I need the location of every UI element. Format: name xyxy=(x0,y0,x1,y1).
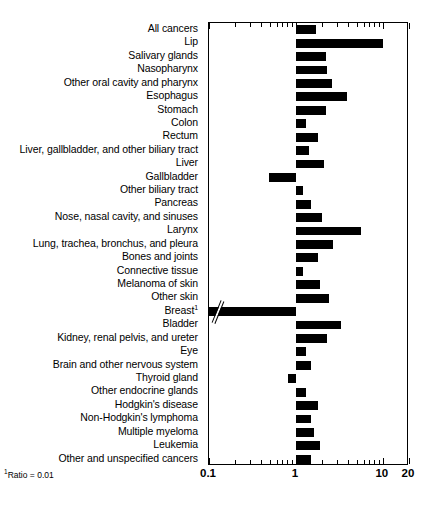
bar xyxy=(296,240,333,249)
category-label: Esophagus xyxy=(0,89,203,102)
bar xyxy=(288,374,295,383)
category-label: Leukemia xyxy=(0,438,203,451)
axis-tick-minor xyxy=(270,460,271,464)
bar-row xyxy=(209,171,407,184)
axis-tick-minor xyxy=(348,460,349,464)
axis-tick-minor xyxy=(357,460,358,464)
bar xyxy=(296,280,320,289)
bar-rows xyxy=(209,23,407,464)
category-label: Salivary glands xyxy=(0,49,203,62)
x-tick-label: 10 xyxy=(375,467,388,479)
bar xyxy=(296,52,326,61)
bar-row xyxy=(209,332,407,345)
axis-tick-minor xyxy=(374,460,375,464)
axis-tick-major xyxy=(409,23,410,29)
category-label: Rectum xyxy=(0,129,203,142)
axis-tick-minor xyxy=(287,460,288,464)
plot-area xyxy=(208,22,408,465)
axis-tick-minor xyxy=(379,460,380,464)
figure: All cancersLipSalivary glandsNasopharynx… xyxy=(0,0,423,505)
bar xyxy=(296,321,341,330)
bar-row xyxy=(209,63,407,76)
bar xyxy=(296,253,318,262)
bar-row xyxy=(209,439,407,452)
bar-row xyxy=(209,50,407,63)
category-label: Melanoma of skin xyxy=(0,277,203,290)
x-tick-label: 0.1 xyxy=(200,467,216,479)
bar-row xyxy=(209,426,407,439)
category-label: Gallbladder xyxy=(0,170,203,183)
bar-row xyxy=(209,251,407,264)
category-label: All cancers xyxy=(0,22,203,35)
category-label: Thyroid gland xyxy=(0,371,203,384)
bar-row xyxy=(209,157,407,170)
bar-row xyxy=(209,278,407,291)
bar xyxy=(296,119,306,128)
bar-row xyxy=(209,144,407,157)
category-label: Stomach xyxy=(0,103,203,116)
bar-row xyxy=(209,184,407,197)
category-label: Liver xyxy=(0,156,203,169)
category-label-column: All cancersLipSalivary glandsNasopharynx… xyxy=(0,22,203,465)
bar xyxy=(296,79,332,88)
bar xyxy=(209,307,296,316)
bar-row xyxy=(209,318,407,331)
bar xyxy=(296,160,324,169)
bar-row xyxy=(209,90,407,103)
category-label: Lung, trachea, bronchus, and pleura xyxy=(0,237,203,250)
category-label: Other biliary tract xyxy=(0,183,203,196)
bar-row xyxy=(209,265,407,278)
category-label: Connective tissue xyxy=(0,264,203,277)
x-axis-tick-labels: 0.111020 xyxy=(0,467,423,483)
category-label: Bones and joints xyxy=(0,250,203,263)
category-label: Bladder xyxy=(0,317,203,330)
axis-tick-minor xyxy=(369,460,370,464)
axis-tick-major xyxy=(383,458,384,464)
category-label: Liver, gallbladder, and other biliary tr… xyxy=(0,143,203,156)
axis-tick-minor xyxy=(364,460,365,464)
category-label: Kidney, renal pelvis, and ureter xyxy=(0,331,203,344)
category-label: Other and unspecified cancers xyxy=(0,452,203,465)
bar xyxy=(296,200,311,209)
footnote: 1Ratio = 0.01 xyxy=(4,470,54,480)
bar xyxy=(296,401,318,410)
bar-row xyxy=(209,211,407,224)
bar xyxy=(296,92,347,101)
bar-row xyxy=(209,372,407,385)
bar xyxy=(296,133,318,142)
category-label: Other oral cavity and pharynx xyxy=(0,76,203,89)
bar xyxy=(296,415,311,424)
bar xyxy=(296,146,309,155)
footnote-marker: 1 xyxy=(194,303,198,310)
bar xyxy=(269,173,296,182)
bar xyxy=(296,361,311,370)
footnote-marker: 1 xyxy=(4,468,8,475)
x-tick-label: 1 xyxy=(292,467,298,479)
category-label: Other endocrine glands xyxy=(0,384,203,397)
category-label: Multiple myeloma xyxy=(0,425,203,438)
bar-row xyxy=(209,453,407,466)
bar-row xyxy=(209,412,407,425)
category-label: Brain and other nervous system xyxy=(0,358,203,371)
bar xyxy=(296,294,329,303)
axis-tick-minor xyxy=(292,460,293,464)
bar-row xyxy=(209,224,407,237)
bar xyxy=(296,186,303,195)
bar-row xyxy=(209,238,407,251)
category-label: Lip xyxy=(0,35,203,48)
axis-tick-minor xyxy=(337,460,338,464)
category-label: Pancreas xyxy=(0,196,203,209)
bar xyxy=(296,455,311,464)
axis-tick-minor xyxy=(250,460,251,464)
bar xyxy=(296,106,326,115)
axis-tick-major xyxy=(296,458,297,464)
bar xyxy=(296,267,303,276)
bar xyxy=(296,66,327,75)
bar-row xyxy=(209,359,407,372)
bar-row xyxy=(209,291,407,304)
axis-tick-minor xyxy=(322,460,323,464)
category-label: Colon xyxy=(0,116,203,129)
bar xyxy=(296,213,322,222)
category-label: Hodgkin's disease xyxy=(0,398,203,411)
bar xyxy=(296,39,383,48)
